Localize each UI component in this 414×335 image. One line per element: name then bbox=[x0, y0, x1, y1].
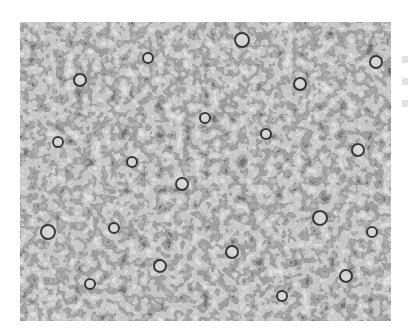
cropped-caption-fragments bbox=[402, 56, 414, 116]
text-fragment bbox=[402, 78, 408, 85]
micrograph-image bbox=[20, 22, 391, 321]
septa-texture bbox=[20, 22, 391, 321]
text-fragment bbox=[402, 56, 408, 63]
text-fragment bbox=[402, 100, 408, 107]
